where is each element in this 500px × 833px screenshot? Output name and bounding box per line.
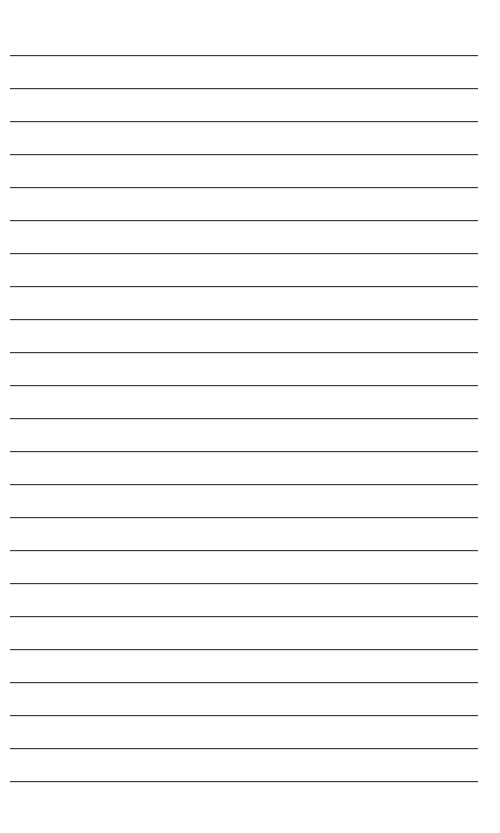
- ruled-line: [10, 418, 478, 419]
- ruled-line: [10, 385, 478, 386]
- ruled-line: [10, 682, 478, 683]
- ruled-line: [10, 88, 478, 89]
- ruled-line: [10, 583, 478, 584]
- ruled-line: [10, 121, 478, 122]
- ruled-line: [10, 616, 478, 617]
- lined-paper-page: [0, 0, 500, 833]
- ruled-line: [10, 484, 478, 485]
- ruled-line: [10, 187, 478, 188]
- ruled-line: [10, 352, 478, 353]
- ruled-line: [10, 517, 478, 518]
- ruled-line: [10, 748, 478, 749]
- ruled-line: [10, 286, 478, 287]
- ruled-line: [10, 319, 478, 320]
- ruled-line: [10, 154, 478, 155]
- ruled-line: [10, 550, 478, 551]
- ruled-line: [10, 781, 478, 782]
- ruled-line: [10, 55, 478, 56]
- ruled-line: [10, 649, 478, 650]
- ruled-line: [10, 715, 478, 716]
- ruled-line: [10, 451, 478, 452]
- ruled-line: [10, 253, 478, 254]
- ruled-line: [10, 220, 478, 221]
